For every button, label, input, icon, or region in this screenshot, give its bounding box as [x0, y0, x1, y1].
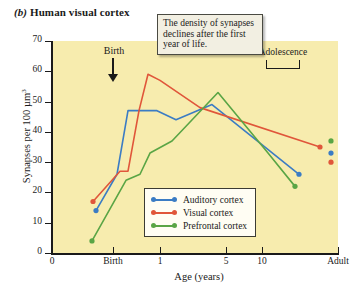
legend-color-swatch [151, 208, 177, 217]
legend-item: Prefrontal cortex [151, 219, 247, 232]
y-axis-title: Synapses per 100 µm3 [20, 36, 33, 236]
x-axis-tick [338, 247, 339, 254]
x-axis-tick [226, 247, 227, 254]
legend-item: Auditory cortex [151, 193, 247, 206]
x-axis-line [51, 253, 339, 255]
birth-annotation-label: Birth [92, 45, 136, 56]
legend-item-label: Prefrontal cortex [183, 221, 247, 231]
y-axis-tick [45, 102, 51, 103]
y-axis-tick-label: 0 [2, 247, 42, 256]
x-axis-tick-label: Adult [308, 256, 358, 267]
annotation-callout: The density of synapses declines after t… [157, 14, 263, 55]
x-axis-tick-label: 1 [130, 256, 190, 267]
legend-item-label: Visual cortex [183, 208, 233, 218]
panel-caption: (b) Human visual cortex [14, 6, 130, 18]
x-axis-tick [160, 247, 161, 254]
adolescence-bracket [266, 60, 300, 69]
x-axis-tick [113, 247, 114, 254]
y-axis-tick [45, 223, 51, 224]
y-axis-tick [45, 132, 51, 133]
y-axis-tick [45, 41, 51, 42]
chart-legend: Auditory cortexVisual cortexPrefrontal c… [144, 188, 256, 237]
page-title: Human visual cortex [30, 6, 130, 18]
x-axis-tick [262, 247, 263, 254]
y-axis-tick [45, 253, 51, 254]
legend-item-label: Auditory cortex [183, 195, 243, 205]
legend-item: Visual cortex [151, 206, 247, 219]
panel-letter: (b) [14, 6, 27, 18]
x-axis-tick-label: 10 [232, 256, 292, 267]
legend-color-swatch [151, 195, 177, 204]
birth-arrow-icon [108, 74, 118, 82]
y-axis-tick [45, 71, 51, 72]
legend-color-swatch [151, 221, 177, 230]
y-axis-tick [45, 192, 51, 193]
y-axis-line [51, 41, 53, 254]
x-axis-tick-label: 0 [22, 256, 82, 267]
x-axis-tick [52, 247, 53, 254]
y-axis-tick [45, 162, 51, 163]
figure-panel: (b) Human visual cortex 0102030405060700… [0, 0, 358, 293]
x-axis-title: Age (years) [129, 271, 269, 282]
